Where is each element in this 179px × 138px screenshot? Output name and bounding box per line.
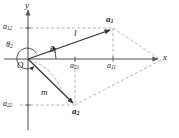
tick-label-a21: a21 — [70, 62, 79, 71]
angle-label-theta1: θ1 — [50, 46, 57, 55]
vector-label-a2-sub: 2 — [77, 110, 80, 116]
angle-label-theta2-sub: 2 — [10, 43, 13, 49]
tick-label-a12-sub: 12 — [7, 25, 12, 31]
parallelogram-side-a1-resultant — [113, 28, 161, 60]
vector-label-a2: a2 — [72, 107, 79, 116]
length-label-l: l — [74, 29, 77, 38]
vector-label-a1: a1 — [106, 15, 113, 24]
tick-label-a12: a12 — [3, 23, 12, 32]
vector-a1 — [28, 30, 110, 59]
angle-label-theta1-sub: 1 — [54, 48, 57, 54]
tick-label-a22-sub: 22 — [7, 102, 12, 108]
length-label-m: m — [41, 88, 48, 97]
x-axis-label: x — [163, 53, 167, 62]
parallelogram-side-a2-resultant — [75, 60, 161, 105]
tick-label-a11: a11 — [107, 62, 116, 71]
tick-label-a11-sub: 11 — [111, 64, 116, 70]
vector-label-a1-sub: 1 — [111, 18, 114, 24]
vector-a2 — [28, 59, 73, 103]
tick-label-a21-sub: 21 — [74, 64, 79, 70]
y-axis-label: y — [25, 1, 29, 10]
tick-label-a22: a22 — [3, 100, 12, 109]
vector-diagram-figure: y x O a12 a22 a21 a11 a1 a2 l m θ1 θ2 — [0, 0, 179, 138]
figure-canvas — [0, 0, 179, 138]
origin-label: O — [17, 61, 24, 70]
angle-label-theta2: θ2 — [6, 41, 13, 50]
